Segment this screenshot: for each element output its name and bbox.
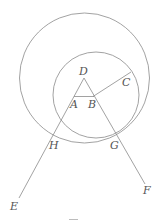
segment-d-to-f [84,78,145,184]
label-g: G [110,139,119,152]
label-d: D [78,65,88,78]
label-a: A [69,98,78,111]
label-c: C [122,76,131,89]
label-b: B [87,98,96,111]
label-f: F [142,184,151,197]
label-h: H [48,139,59,152]
segment-d-to-e [19,78,84,198]
label-e: E [9,200,18,213]
geometry-diagram: D A B C H G E F [0,0,159,220]
